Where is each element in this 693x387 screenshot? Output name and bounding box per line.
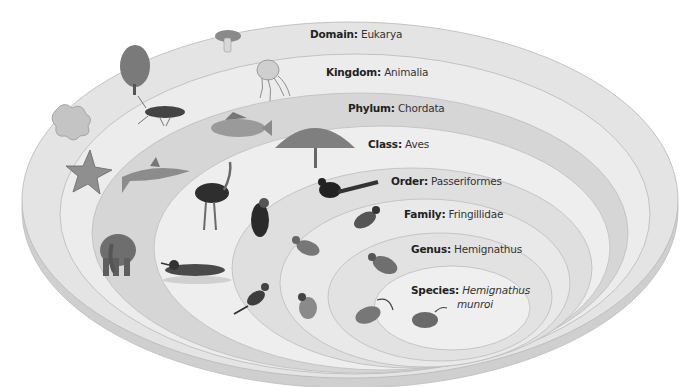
rank: Class: xyxy=(368,138,402,150)
genus-label: Genus: Hemignathus xyxy=(411,243,522,255)
rank: Order: xyxy=(391,175,428,187)
rank: Kingdom: xyxy=(326,66,381,78)
species-name-genus: Hemignathus xyxy=(462,284,530,296)
kingdom-label: Kingdom: Animalia xyxy=(326,66,428,78)
species-label: Species: Hemignathus munroi xyxy=(411,283,530,311)
phylum-label: Phylum: Chordata xyxy=(348,102,445,114)
taxon-name: Fringillidae xyxy=(449,208,504,220)
rank: Family: xyxy=(404,208,445,220)
taxon-name: Eukarya xyxy=(361,28,402,40)
taxonomy-diagram xyxy=(0,0,693,387)
taxon-name: Animalia xyxy=(384,66,428,78)
domain-label: Domain: Eukarya xyxy=(310,28,402,40)
species-name-epithet: munroi xyxy=(457,298,493,310)
class-label: Class: Aves xyxy=(368,138,429,150)
rank: Domain: xyxy=(310,28,358,40)
family-label: Family: Fringillidae xyxy=(404,208,503,220)
rank: Phylum: xyxy=(348,102,395,114)
taxon-name: Chordata xyxy=(398,102,445,114)
order-label: Order: Passeriformes xyxy=(391,175,502,187)
rank: Species: xyxy=(411,284,459,296)
taxon-name: Aves xyxy=(405,138,429,150)
taxon-name: Passeriformes xyxy=(431,175,502,187)
rank: Genus: xyxy=(411,243,451,255)
taxon-name: Hemignathus xyxy=(454,243,522,255)
